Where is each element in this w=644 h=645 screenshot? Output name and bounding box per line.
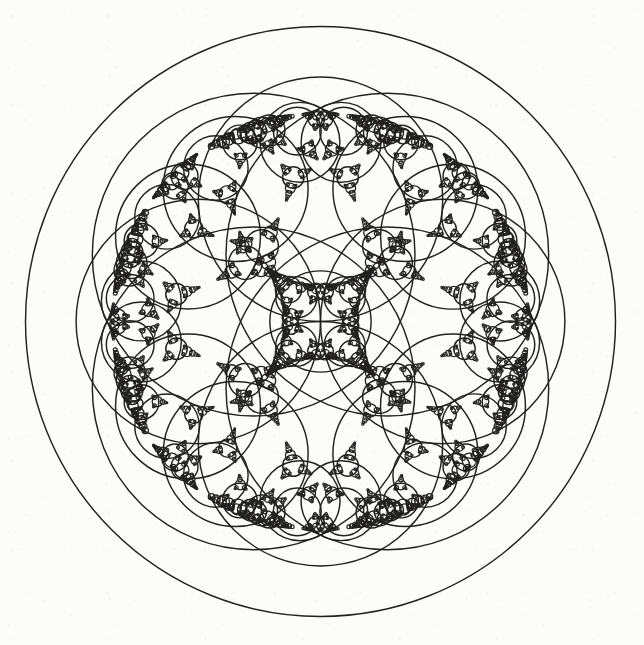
gasket-circle [113,291,117,295]
gasket-circle [347,525,351,529]
apollonian-gasket-figure [0,0,644,645]
gasket-circle [152,236,162,246]
gasket-circle [152,397,162,407]
gasket-circle [524,348,528,352]
gasket-circle [235,480,245,490]
gasket-circle [290,525,294,529]
gasket-circle-group [26,27,616,617]
gasket-canvas [0,0,644,645]
gasket-circle [396,480,406,490]
gasket-circle [347,114,351,118]
gasket-circle [113,348,117,352]
gasket-circle [524,291,528,295]
gasket-circle [479,236,489,246]
gasket-circle [479,397,489,407]
gasket-circle [235,153,245,163]
gasket-circle [290,114,294,118]
gasket-circle [396,153,406,163]
